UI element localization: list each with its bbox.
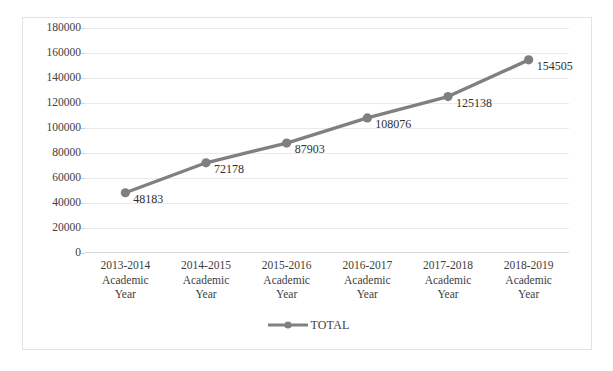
y-axis-tick-mark (81, 178, 85, 179)
x-axis-category-line: 2015-2016 (244, 258, 330, 273)
x-axis-category-line: Academic (324, 273, 410, 288)
y-axis-tick-mark (81, 128, 85, 129)
y-axis-tick-mark (81, 153, 85, 154)
x-axis-category-line: 2013-2014 (82, 258, 168, 273)
x-axis-category-line: 2014-2015 (163, 258, 249, 273)
gridline (85, 153, 569, 154)
data-point-label: 154505 (537, 60, 573, 72)
y-axis-tick-label: 120000 (25, 97, 81, 109)
y-axis-tick-label: 0 (25, 247, 81, 259)
x-axis-category-label: 2013-2014AcademicYear (82, 258, 168, 302)
x-axis-category-label: 2017-2018AcademicYear (405, 258, 491, 302)
x-axis-category-line: Academic (163, 273, 249, 288)
y-axis-tick-mark (81, 103, 85, 104)
gridline (85, 78, 569, 79)
gridline (85, 53, 569, 54)
y-axis-tick-mark (81, 203, 85, 204)
x-axis-category-line: Academic (244, 273, 330, 288)
x-axis-category-line: Year (163, 287, 249, 302)
x-axis: 2013-2014AcademicYear2014-2015AcademicYe… (85, 258, 569, 314)
y-axis-tick-label: 160000 (25, 47, 81, 59)
legend-marker-icon (266, 319, 310, 331)
x-axis-category-line: Academic (82, 273, 168, 288)
chart-legend: TOTAL (23, 319, 593, 331)
y-axis-tick-label: 140000 (25, 72, 81, 84)
x-axis-category-line: Year (405, 287, 491, 302)
gridline (85, 178, 569, 179)
data-point-label: 48183 (133, 193, 163, 205)
x-axis-category-label: 2016-2017AcademicYear (324, 258, 410, 302)
gridline (85, 128, 569, 129)
y-axis-tick-label: 180000 (25, 22, 81, 34)
x-axis-category-line: 2016-2017 (324, 258, 410, 273)
gridline (85, 28, 569, 29)
y-axis-tick-label: 40000 (25, 197, 81, 209)
legend-label-total: TOTAL (310, 319, 349, 331)
x-axis-category-line: 2018-2019 (486, 258, 572, 273)
data-point-label: 125138 (456, 97, 492, 109)
x-axis-category-label: 2014-2015AcademicYear (163, 258, 249, 302)
x-axis-category-line: 2017-2018 (405, 258, 491, 273)
x-axis-category-line: Academic (486, 273, 572, 288)
y-axis-tick-label: 100000 (25, 122, 81, 134)
data-point-label: 72178 (214, 163, 244, 175)
y-axis-tick-mark (81, 28, 85, 29)
x-axis-category-line: Year (486, 287, 572, 302)
x-axis-category-line: Year (82, 287, 168, 302)
x-axis-category-line: Academic (405, 273, 491, 288)
y-axis-tick-label: 60000 (25, 172, 81, 184)
plot-area (85, 28, 569, 253)
y-axis-tick-mark (81, 253, 85, 254)
x-axis-category-line: Year (244, 287, 330, 302)
y-axis-tick-mark (81, 228, 85, 229)
data-point-label: 108076 (375, 118, 411, 130)
gridline (85, 228, 569, 229)
y-axis: 0200004000060000800001000001200001400001… (23, 28, 81, 253)
data-point-label: 87903 (295, 143, 325, 155)
x-axis-category-label: 2018-2019AcademicYear (486, 258, 572, 302)
y-axis-tick-label: 20000 (25, 222, 81, 234)
x-axis-line (85, 252, 569, 253)
x-axis-category-line: Year (324, 287, 410, 302)
x-axis-category-label: 2015-2016AcademicYear (244, 258, 330, 302)
clipped-caption-strip (0, 0, 613, 8)
y-axis-tick-mark (81, 53, 85, 54)
chart-frame: 0200004000060000800001000001200001400001… (22, 17, 592, 350)
gridline (85, 103, 569, 104)
y-axis-tick-mark (81, 78, 85, 79)
y-axis-tick-label: 80000 (25, 147, 81, 159)
